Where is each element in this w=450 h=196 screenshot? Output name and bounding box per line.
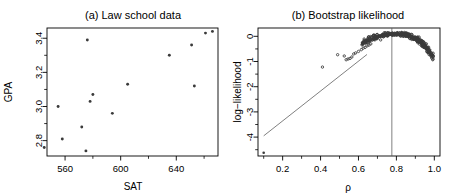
data-point [91,93,94,96]
svg-text:560: 560 [57,163,73,174]
panel-b-plot-area: 0.20.40.60.81.00-1-2-3-4 [244,28,441,174]
data-point [193,85,196,88]
data-point [126,83,129,86]
data-point [86,39,89,42]
svg-text:3.2: 3.2 [33,66,44,79]
data-point [211,30,214,33]
data-point [354,52,356,54]
data-point [357,50,359,52]
svg-text:-2: -2 [244,82,255,90]
panel-b-points [262,31,434,154]
panel-b-svg: (b) Bootstrap likelihood 0.20.40.60.81.0… [228,0,450,196]
panel-b-yaxis-label: log−likelihood [232,62,243,123]
panel-a-xaxis-label: SAT [124,181,143,192]
svg-text:640: 640 [168,163,184,174]
data-point [111,112,114,115]
data-point [343,55,345,57]
panel-bootstrap-likelihood: (b) Bootstrap likelihood 0.20.40.60.81.0… [228,0,450,196]
svg-text:1.0: 1.0 [428,163,441,174]
panel-law-school-data: (a) Law school data 5606006402.83.03.23.… [0,0,228,196]
svg-text:0.2: 0.2 [276,163,289,174]
data-point [61,137,64,140]
data-point [89,100,92,103]
svg-text:3.0: 3.0 [33,100,44,113]
data-point [80,126,83,129]
svg-text:0: 0 [244,34,255,39]
panel-a-yaxis-label: GPA [3,81,14,102]
data-point [336,54,338,56]
data-point [168,54,171,57]
svg-text:-3: -3 [244,108,255,116]
panel-a-points [43,30,214,152]
panel-a-plot-area: 5606006402.83.03.23.4 [33,28,218,174]
svg-text:600: 600 [113,163,129,174]
data-point [351,56,353,58]
data-point [204,32,207,35]
svg-text:-1: -1 [244,57,255,65]
svg-text:0.4: 0.4 [314,163,327,174]
data-point [57,105,60,108]
data-point [43,146,46,149]
data-point [190,44,193,47]
panel-a-title: (a) Law school data [85,9,182,21]
svg-text:3.4: 3.4 [33,32,44,45]
svg-text:0.6: 0.6 [352,163,365,174]
data-point [84,149,87,152]
figure-root: (a) Law school data 5606006402.83.03.23.… [0,0,450,196]
svg-text:0.8: 0.8 [390,163,403,174]
panel-b-xaxis-label: ρ [345,182,351,193]
data-point [379,39,381,41]
panel-b-title: (b) Bootstrap likelihood [292,9,405,21]
outlier-point [262,151,265,154]
svg-text:-4: -4 [244,133,255,141]
svg-text:2.8: 2.8 [33,134,44,147]
panel-a-svg: (a) Law school data 5606006402.83.03.23.… [0,0,228,196]
reference-line [264,54,367,135]
data-point [321,66,323,68]
